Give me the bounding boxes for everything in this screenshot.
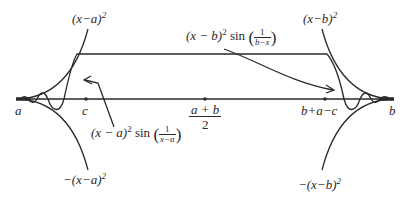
label-c: c <box>82 104 88 117</box>
midpoint-numerator: a + b <box>189 103 221 116</box>
diagram-canvas: a c a + b 2 b+a−c b (x−a)2 (x−b)2 −(x−a)… <box>0 0 408 201</box>
label-a: a <box>15 104 22 117</box>
midpoint-denominator: 2 <box>189 116 221 131</box>
label-upper-right-envelope: (x−b)2 <box>303 12 337 25</box>
label-lower-left-envelope: −(x−a)2 <box>63 173 106 186</box>
label-lower-right-envelope: −(x−b)2 <box>298 178 341 191</box>
bac-dot <box>323 97 327 101</box>
label-right-function: (x − b)2 sin (1b−x) <box>186 28 276 47</box>
c-dot <box>84 97 88 101</box>
label-b-plus-a-minus-c: b+a−c <box>301 104 337 117</box>
label-b: b <box>389 104 396 117</box>
midpoint-dot <box>203 97 207 101</box>
label-midpoint: a + b 2 <box>189 103 221 131</box>
upper-left-parabola <box>18 29 88 99</box>
left-arrowhead <box>84 76 92 84</box>
right-oscillation <box>327 54 390 110</box>
label-upper-left-envelope: (x−a)2 <box>72 12 106 25</box>
label-left-function: (x − a)2 sin (1x−a) <box>91 125 181 144</box>
left-annotation-arrow <box>85 80 114 127</box>
lower-left-parabola <box>18 99 88 170</box>
right-annotation-arrow <box>224 49 333 90</box>
